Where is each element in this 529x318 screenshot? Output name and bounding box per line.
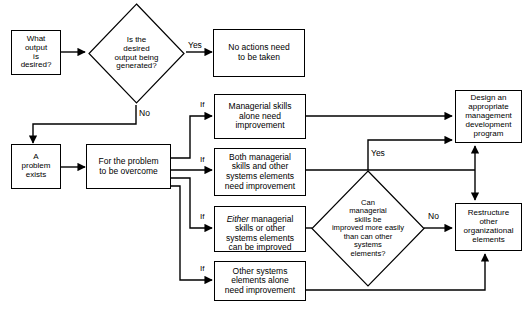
flowchart-canvas: What output is desired? Is the desired o… bbox=[0, 0, 529, 318]
node-managerial-skills-alone-label: Managerial skills alone need improvement bbox=[227, 102, 294, 131]
node-restructure: Restructure other organizational element… bbox=[455, 203, 522, 251]
node-for-the-problem-label: For the problem to be overcome bbox=[97, 157, 161, 176]
edge-forproblem-to-othersystems bbox=[171, 186, 212, 280]
edge-label-yes-top: Yes bbox=[188, 40, 202, 50]
edge-label-yes-diamond: Yes bbox=[371, 148, 385, 158]
edge-label-no-top: No bbox=[139, 108, 150, 118]
node-decision-can-managerial: Can managerial skills be improved more e… bbox=[311, 170, 425, 287]
node-both-managerial-label: Both managerial skills and other systems… bbox=[223, 153, 297, 191]
node-decision-desired-output: Is the desired output being generated? bbox=[88, 3, 185, 104]
node-no-actions-label: No actions need to be taken bbox=[226, 43, 291, 62]
node-design-program: Design an appropriate management develop… bbox=[455, 90, 522, 143]
node-other-systems-alone: Other systems elements alone need improv… bbox=[214, 261, 306, 301]
node-what-output-label: What output is desired? bbox=[19, 35, 54, 71]
edge-label-if-other: If bbox=[200, 264, 204, 273]
node-restructure-label: Restructure other organizational element… bbox=[462, 209, 516, 245]
node-other-systems-alone-label: Other systems elements alone need improv… bbox=[223, 267, 297, 296]
node-both-managerial: Both managerial skills and other systems… bbox=[214, 148, 306, 196]
node-no-actions: No actions need to be taken bbox=[213, 29, 305, 77]
node-managerial-skills-alone: Managerial skills alone need improvement bbox=[214, 94, 306, 139]
edge-decision1-no-to-problem bbox=[33, 105, 136, 143]
edge-label-no-diamond: No bbox=[428, 211, 439, 221]
node-for-the-problem: For the problem to be overcome bbox=[86, 144, 171, 189]
node-problem-exists: A problem exists bbox=[11, 144, 61, 189]
node-either-managerial-text: Either managerial skills or other system… bbox=[224, 205, 296, 253]
edge-forproblem-to-managerial bbox=[171, 116, 212, 158]
node-what-output: What output is desired? bbox=[11, 30, 61, 75]
edge-label-if-either: If bbox=[200, 212, 204, 221]
node-either-managerial-emphasis: Either bbox=[227, 214, 249, 224]
edge-label-if-managerial: If bbox=[200, 100, 204, 109]
node-design-program-label: Design an appropriate management develop… bbox=[463, 94, 514, 139]
edge-label-if-both: If bbox=[200, 155, 204, 164]
node-problem-exists-label: A problem exists bbox=[20, 153, 53, 180]
node-either-managerial: Either managerial skills or other system… bbox=[214, 206, 306, 252]
